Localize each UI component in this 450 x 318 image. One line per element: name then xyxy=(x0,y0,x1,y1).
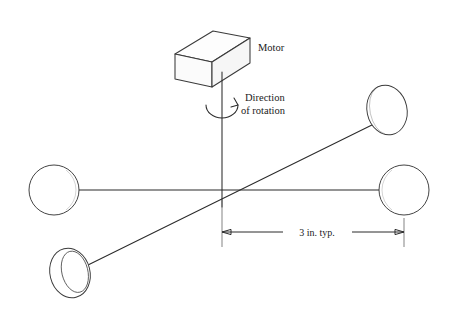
sphere-upper-right xyxy=(362,81,412,138)
sphere-right-stipple-2 xyxy=(380,166,428,214)
arm-group xyxy=(76,122,404,265)
motor-box xyxy=(175,31,250,87)
sphere-right xyxy=(379,165,429,215)
sphere-lower-left xyxy=(45,244,96,302)
rotation-arrow-head xyxy=(231,98,238,107)
sphere-left-stipple-2 xyxy=(30,166,78,214)
dimension-label: 3 in. typ. xyxy=(299,227,335,238)
sphere-lower-left-stipple-2 xyxy=(46,245,94,301)
direction-label-line1: Direction xyxy=(245,92,285,103)
motor-label: Motor xyxy=(258,42,285,53)
direction-of-rotation-label: Direction of rotation xyxy=(241,92,286,116)
dimension-3-in-typ: 3 in. typ. xyxy=(222,200,404,247)
direction-label-line2: of rotation xyxy=(241,105,286,116)
diagonal-arm xyxy=(88,122,378,265)
sphere-upper-right-stipple-2 xyxy=(363,83,410,138)
sphere-left xyxy=(29,165,79,215)
figure-root: 3 in. typ. Motor Direction of rotation xyxy=(0,0,450,318)
apparatus-diagram: 3 in. typ. Motor Direction of rotation xyxy=(0,0,450,318)
